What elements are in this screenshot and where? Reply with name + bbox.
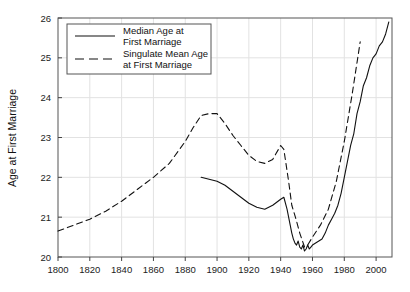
- y-gridlines: [58, 58, 392, 217]
- y-tick-label: 20: [40, 252, 51, 263]
- x-tick-label: 1820: [79, 264, 100, 275]
- y-tick-label: 26: [40, 13, 51, 24]
- legend-item-1-line1: Singulate Mean Age: [123, 48, 208, 59]
- line-chart: 1800182018401860188019001920194019601980…: [0, 0, 410, 292]
- legend-item-1-line2: at First Marriage: [123, 59, 192, 70]
- x-tick-label: 1840: [111, 264, 132, 275]
- x-tick-label: 1920: [238, 264, 259, 275]
- x-tick-label: 1860: [143, 264, 164, 275]
- y-axis-ticks: [58, 18, 62, 257]
- x-tick-label: 1940: [270, 264, 291, 275]
- legend: Median Age at First Marriage Singulate M…: [67, 24, 211, 74]
- x-tick-label: 2000: [366, 264, 387, 275]
- y-tick-label: 21: [40, 212, 51, 223]
- x-tick-label: 1900: [206, 264, 227, 275]
- y-tick-label: 22: [40, 172, 51, 183]
- chart-figure: 1800182018401860188019001920194019601980…: [0, 0, 410, 292]
- legend-item-0-line2: First Marriage: [123, 36, 182, 47]
- y-tick-label: 23: [40, 132, 51, 143]
- y-tick-label: 25: [40, 52, 51, 63]
- y-tick-label: 24: [40, 92, 51, 103]
- x-tick-label: 1980: [334, 264, 355, 275]
- x-tick-label: 1880: [175, 264, 196, 275]
- x-tick-label: 1800: [47, 264, 68, 275]
- y-axis-title: Age at First Marriage: [6, 89, 18, 187]
- x-tick-labels: 1800182018401860188019001920194019601980…: [47, 264, 386, 275]
- y-tick-labels: 20212223242526: [40, 13, 51, 263]
- legend-item-0-line1: Median Age at: [123, 25, 184, 36]
- x-tick-label: 1960: [302, 264, 323, 275]
- x-axis-ticks: [58, 257, 376, 261]
